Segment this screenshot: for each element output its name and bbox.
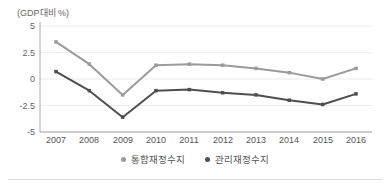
chart-legend: 통합재정수지 관리재정수지	[0, 152, 390, 166]
fiscal-balance-chart-page: (GDP대비 %) 5 2.5 0 -2.5 -5 2007 2008 2009…	[0, 0, 390, 186]
x-tick-2008: 2008	[71, 135, 107, 145]
y-tick-2-5: 2.5	[8, 48, 35, 58]
x-tick-2015: 2015	[305, 135, 341, 145]
data-point-marker	[154, 89, 158, 93]
x-tick-2012: 2012	[205, 135, 241, 145]
x-tick-2010: 2010	[138, 135, 174, 145]
y-tick-0: 0	[8, 74, 35, 84]
x-tick-2007: 2007	[38, 135, 74, 145]
series-line-1	[56, 72, 356, 118]
data-point-marker	[54, 40, 58, 44]
data-point-marker	[354, 67, 358, 71]
data-point-marker	[321, 103, 325, 107]
data-point-marker	[88, 62, 92, 66]
data-point-marker	[221, 91, 225, 95]
x-tick-2014: 2014	[271, 135, 307, 145]
x-tick-2011: 2011	[171, 135, 207, 145]
data-point-marker	[288, 71, 292, 75]
data-point-marker	[254, 93, 258, 97]
x-tick-2009: 2009	[105, 135, 141, 145]
data-point-marker	[54, 70, 58, 74]
y-tick-neg2-5: -2.5	[8, 101, 35, 111]
legend-label: 통합재정수지	[131, 152, 185, 166]
bottom-divider	[8, 179, 382, 180]
x-tick-2013: 2013	[238, 135, 274, 145]
data-point-marker	[321, 77, 325, 81]
data-point-marker	[354, 92, 358, 96]
data-point-marker	[254, 67, 258, 71]
x-tick-2016: 2016	[338, 135, 374, 145]
y-tick-neg5: -5	[8, 127, 35, 137]
data-point-marker	[154, 63, 158, 67]
data-point-marker	[188, 88, 192, 92]
legend-item-managed-balance: 관리재정수지	[205, 152, 269, 166]
data-point-marker	[88, 89, 92, 93]
data-point-marker	[288, 98, 292, 102]
series-line-0	[56, 42, 356, 95]
y-tick-5: 5	[8, 21, 35, 31]
legend-label: 관리재정수지	[215, 152, 269, 166]
legend-dot-icon	[121, 157, 126, 162]
data-point-marker	[121, 115, 125, 119]
data-point-marker	[121, 93, 125, 97]
legend-dot-icon	[205, 157, 210, 162]
data-point-marker	[221, 63, 225, 67]
data-point-marker	[188, 62, 192, 66]
legend-item-consolidated-balance: 통합재정수지	[121, 152, 185, 166]
